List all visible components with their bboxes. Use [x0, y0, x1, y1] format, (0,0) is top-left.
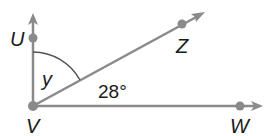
point-v	[28, 101, 38, 111]
point-w	[236, 102, 245, 111]
arrowhead-z-icon	[191, 12, 205, 22]
angle-diagram: U V Z W y 28°	[0, 0, 268, 136]
angle-label-28: 28°	[98, 81, 127, 102]
label-z: Z	[175, 35, 189, 57]
point-u	[29, 34, 38, 43]
label-v: V	[26, 115, 41, 136]
point-z	[178, 20, 187, 29]
angle-arc-y	[33, 52, 80, 80]
angle-label-y: y	[40, 68, 53, 90]
label-u: U	[10, 28, 25, 50]
label-w: W	[230, 115, 251, 136]
